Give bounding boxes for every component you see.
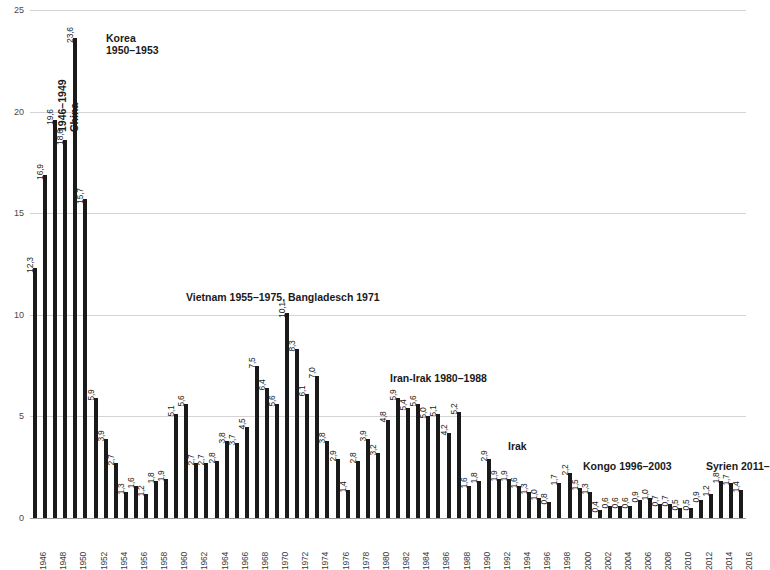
bar-rect: [275, 404, 279, 518]
y-tick-label: 15: [14, 208, 24, 218]
bar: 4,5: [245, 427, 249, 518]
bar-rect: [94, 398, 98, 518]
bar: 19,6: [53, 120, 57, 518]
bar-value-label: 5,9: [388, 390, 398, 401]
bar: 2,8: [356, 461, 360, 518]
bar: 5,9: [94, 398, 98, 518]
bar-value-label: 19,6: [45, 109, 55, 125]
bar-value-label: 0,7: [650, 495, 660, 506]
bar: 1,9: [497, 479, 501, 518]
bar-rect: [739, 490, 743, 518]
bar-value-label: 0,7: [660, 495, 670, 506]
bar: 1,3: [124, 492, 128, 518]
bar-rect: [53, 120, 57, 518]
bar: 5,6: [416, 404, 420, 518]
bar-value-label: 8,3: [287, 341, 297, 352]
bar-rect: [396, 398, 400, 518]
bar-rect: [557, 483, 561, 518]
x-tick-label: 2012: [704, 552, 714, 570]
bar: 1,8: [154, 481, 158, 518]
bar-rect: [406, 408, 410, 518]
bar-rect: [457, 412, 461, 518]
bar: 1,8: [719, 481, 723, 518]
bar-value-label: 10,1: [277, 302, 287, 318]
x-tick-label: 1972: [300, 552, 310, 570]
bar-value-label: 6,4: [257, 379, 267, 390]
x-tick-label: 1980: [381, 552, 391, 570]
bar-rect: [447, 433, 451, 518]
bar-value-label: 1,9: [156, 471, 166, 482]
bar-value-label: 5,2: [449, 404, 459, 415]
bar-rect: [104, 439, 108, 518]
bar-value-label: 2,8: [348, 453, 358, 464]
bar-value-label: 7,5: [247, 357, 257, 368]
bar-value-label: 0,5: [681, 499, 691, 510]
bar-value-label: 0,4: [590, 501, 600, 512]
bar-rect: [376, 453, 380, 518]
bar-value-label: 12,3: [25, 257, 35, 273]
bar-value-label: 0,6: [600, 497, 610, 508]
bar-value-label: 2,7: [196, 455, 206, 466]
x-tick-label: 2014: [724, 552, 734, 570]
bar: 1,2: [709, 494, 713, 518]
x-axis: 1946194819501952195419561958196019621964…: [30, 520, 746, 558]
x-tick-label: 1958: [159, 552, 169, 570]
y-tick-label: 0: [19, 513, 24, 523]
annotation-line: Vietnam 1955–1975, Bangladesch 1971: [186, 291, 380, 303]
bar: 15,7: [83, 199, 87, 518]
bar-value-label: 0,8: [539, 493, 549, 504]
y-tick-label: 25: [14, 5, 24, 15]
bar-rect: [204, 463, 208, 518]
bar-value-label: 5,1: [428, 406, 438, 417]
plot-area: 12,316,919,618,623,615,75,93,92,71,31,61…: [30, 10, 746, 518]
bar-value-label: 4,5: [237, 418, 247, 429]
bar: 2,7: [194, 463, 198, 518]
y-tick-label: 20: [14, 107, 24, 117]
annotation-iran-irak: Iran-Irak 1980–1988: [390, 372, 487, 384]
x-tick-label: 2016: [744, 552, 754, 570]
x-tick-label: 1966: [240, 552, 250, 570]
bar-rect: [426, 416, 430, 518]
bar: 5,9: [396, 398, 400, 518]
bar-value-label: 1,0: [529, 489, 539, 500]
bar: 6,1: [305, 394, 309, 518]
x-tick-label: 1960: [179, 552, 189, 570]
bar-value-label: 1,7: [549, 475, 559, 486]
bar-rect: [174, 414, 178, 518]
bar-rect: [164, 479, 168, 518]
x-tick-label: 1962: [199, 552, 209, 570]
bar-rect: [346, 490, 350, 518]
x-tick-label: 1982: [401, 552, 411, 570]
bar: 0,5: [689, 508, 693, 518]
bar-value-label: 23,6: [65, 28, 75, 44]
bar: 0,4: [598, 510, 602, 518]
bar-value-label: 5,6: [176, 396, 186, 407]
y-axis: 0510152025: [0, 10, 28, 518]
x-tick-label: 1984: [421, 552, 431, 570]
bar-rect: [83, 199, 87, 518]
bar-value-label: 5,9: [86, 390, 96, 401]
bar: 2,8: [215, 461, 219, 518]
bar-value-label: 5,1: [166, 406, 176, 417]
bar-rect: [719, 481, 723, 518]
annotation-china: China1946–1949: [56, 79, 80, 132]
x-tick-label: 1946: [38, 552, 48, 570]
bar-value-label: 0,5: [670, 499, 680, 510]
annotation-syrien: Syrien 2011–: [706, 460, 770, 472]
bar-value-label: 1,6: [126, 477, 136, 488]
x-tick-label: 1974: [320, 552, 330, 570]
bar: 6,4: [265, 388, 269, 518]
bar-value-label: 1,8: [711, 473, 721, 484]
bar: 5,1: [174, 414, 178, 518]
x-tick-label: 1988: [462, 552, 472, 570]
x-tick-label: 1994: [522, 552, 532, 570]
x-tick-label: 2004: [623, 552, 633, 570]
bar-value-label: 16,9: [35, 164, 45, 180]
bar-rect: [43, 175, 47, 518]
x-tick-label: 2000: [583, 552, 593, 570]
bar: 2,7: [204, 463, 208, 518]
bar-value-label: 1,9: [489, 471, 499, 482]
bar-rect: [416, 404, 420, 518]
x-tick-label: 1976: [341, 552, 351, 570]
bar: 1,9: [164, 479, 168, 518]
